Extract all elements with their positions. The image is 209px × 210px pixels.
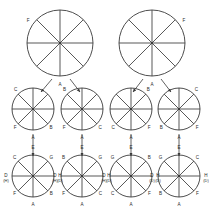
vertex-label: C <box>99 192 102 197</box>
hub-dot <box>178 108 180 110</box>
wheel-circle <box>110 155 152 197</box>
vertex-label: F <box>62 192 65 197</box>
wheel-circle <box>158 155 200 197</box>
vertex-label: E <box>129 146 132 151</box>
arrows-layer <box>33 79 179 156</box>
vertex-label: (D) <box>149 179 155 184</box>
wheel-circle <box>119 10 185 76</box>
vertex-label: F <box>14 126 17 131</box>
vertex-label: F <box>148 125 151 130</box>
flow-arrow <box>133 79 143 92</box>
hub-dot <box>130 108 132 110</box>
vertex-label: B <box>160 126 163 131</box>
vertex-label: C <box>111 192 114 197</box>
hub-dot <box>81 175 83 177</box>
wheel-tree-diagram: FAFACFBABFCABCFACBFAEGH(D)BAFD(H)CEGH(D)… <box>0 0 209 210</box>
vertex-label: F <box>63 126 66 131</box>
vertex-label: (H) <box>101 179 107 184</box>
vertex-label: F <box>13 192 16 197</box>
vertex-label: F <box>27 18 30 23</box>
vertex-label: C <box>14 87 17 92</box>
wheel-circle <box>12 155 54 197</box>
vertex-label: F <box>183 18 186 23</box>
wheel-circle <box>61 88 103 130</box>
flow-arrow <box>70 79 80 92</box>
vertex-label: A <box>58 83 61 88</box>
vertex-label: C <box>196 155 199 160</box>
vertex-label: A <box>129 203 132 208</box>
vertex-label: C <box>195 87 198 92</box>
hub-dot <box>32 175 34 177</box>
vertex-label: (H) <box>3 179 9 184</box>
vertex-label: F <box>196 125 199 130</box>
wheel-circle <box>110 88 152 130</box>
vertex-label: B <box>159 192 162 197</box>
vertex-label: E <box>177 146 180 151</box>
vertex-label: C <box>98 125 101 130</box>
vertex-label: F <box>196 192 199 197</box>
vertex-label: G <box>50 155 54 160</box>
vertex-label: C <box>13 155 16 160</box>
vertex-label: B <box>147 87 150 92</box>
hub-dot <box>59 42 61 44</box>
wheel-circle <box>61 155 103 197</box>
vertex-label: B <box>148 155 151 160</box>
vertex-label: A <box>177 203 180 208</box>
vertex-label: C <box>112 126 115 131</box>
circles-layer <box>12 10 200 197</box>
vertex-label: A <box>80 136 83 141</box>
vertex-label: A <box>150 83 153 88</box>
vertex-label: B <box>50 192 53 197</box>
hub-dot <box>32 108 34 110</box>
vertex-label: B <box>63 87 66 92</box>
vertex-label: A <box>129 136 132 141</box>
vertex-label: E <box>31 146 34 151</box>
vertex-label: (D) <box>155 179 161 184</box>
hub-dot <box>151 42 153 44</box>
hub-dot <box>178 175 180 177</box>
vertex-label: B <box>50 125 53 130</box>
hub-dot <box>130 175 132 177</box>
vertex-label: A <box>31 203 34 208</box>
vertex-label: A <box>177 136 180 141</box>
vertex-label: G <box>111 155 115 160</box>
vertex-label: (H) <box>52 179 58 184</box>
vertex-label: (D) <box>203 179 209 184</box>
vertex-label: G <box>99 155 103 160</box>
hub-dot <box>81 108 83 110</box>
vertex-label: G <box>159 155 163 160</box>
wheel-circle <box>12 88 54 130</box>
vertex-label: A <box>31 136 34 141</box>
vertex-label: A <box>80 203 83 208</box>
vertex-label: B <box>62 155 65 160</box>
wheel-circle <box>27 10 93 76</box>
vertex-label: E <box>80 146 83 151</box>
wheel-circle <box>158 88 200 130</box>
vertex-label: F <box>148 192 151 197</box>
